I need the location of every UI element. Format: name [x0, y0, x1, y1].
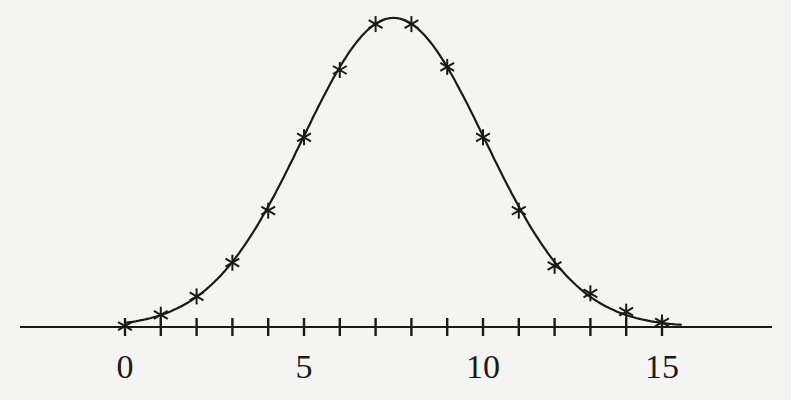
asterisk-marker: [548, 258, 562, 274]
asterisk-marker: [297, 129, 311, 145]
asterisk-marker: [190, 288, 204, 304]
asterisk-marker: [405, 16, 419, 32]
chart: 051015: [0, 0, 791, 400]
asterisk-markers: [118, 16, 669, 334]
asterisk-marker: [476, 129, 490, 145]
asterisk-marker: [154, 307, 168, 323]
x-tick-label: 0: [117, 348, 134, 385]
x-tick-label: 10: [466, 348, 500, 385]
asterisk-marker: [369, 16, 383, 32]
density-curve: [125, 18, 682, 325]
x-axis-tick-labels: 051015: [117, 348, 680, 385]
x-tick-label: 15: [645, 348, 679, 385]
x-tick-label: 5: [296, 348, 313, 385]
